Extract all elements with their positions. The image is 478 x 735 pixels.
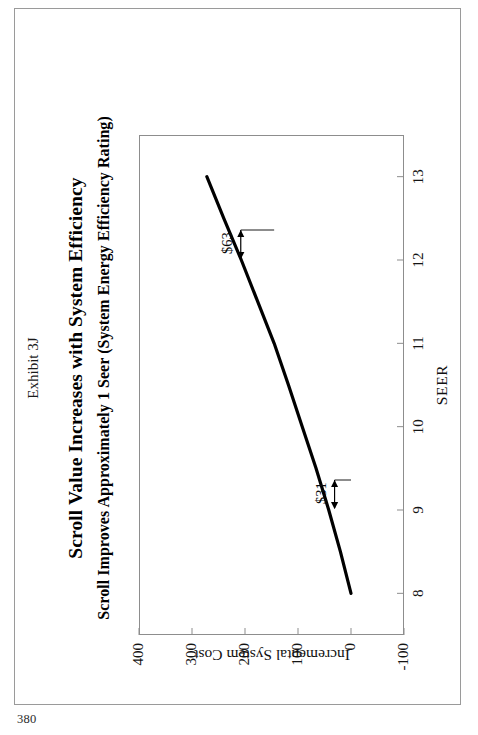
- x-tick-label: 9: [410, 493, 427, 527]
- y-axis-title: Incremental System Cost: [152, 646, 392, 664]
- figure-title: Scroll Value Increases with System Effic…: [65, 23, 87, 713]
- annotation-label-0: $31: [313, 482, 330, 504]
- figure-canvas: Exhibit 3J Scroll Value Increases with S…: [19, 23, 459, 713]
- plot-svg: [139, 135, 404, 635]
- axis-ticks-layer: [139, 176, 404, 634]
- annotation-label-1: $63: [219, 232, 236, 254]
- exhibit-label: Exhibit 3J: [25, 23, 42, 713]
- figure-subtitle: Scroll Improves Approximately 1 Seer (Sy…: [95, 23, 113, 713]
- x-tick-label: 8: [410, 576, 427, 610]
- x-tick-label: 13: [410, 159, 427, 193]
- y-tick-label: 400: [130, 643, 146, 687]
- page-number: 380: [17, 712, 36, 727]
- x-tick-label: 10: [410, 409, 427, 443]
- x-tick-label: 11: [410, 326, 427, 360]
- annotations-layer: [241, 230, 351, 508]
- rotated-figure-wrapper: Exhibit 3J Scroll Value Increases with S…: [0, 0, 478, 735]
- x-tick-label: 12: [410, 243, 427, 277]
- y-tick-label: -100: [395, 643, 411, 687]
- x-axis-title: SEER: [433, 135, 451, 635]
